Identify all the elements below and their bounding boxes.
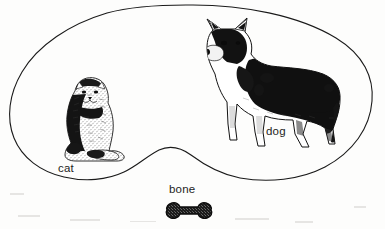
scan-artifact <box>235 218 269 220</box>
label-cat: cat <box>58 163 74 175</box>
dog-illustration <box>183 16 348 160</box>
bone-illustration <box>163 200 215 222</box>
label-bone: bone <box>169 184 195 196</box>
label-dog: dog <box>266 126 286 138</box>
scan-artifact <box>130 221 156 222</box>
scan-artifact <box>10 193 24 195</box>
cat-illustration <box>54 73 128 165</box>
scan-artifact <box>18 215 40 217</box>
scan-artifact <box>295 221 313 223</box>
scan-artifact <box>70 219 100 221</box>
diagram-canvas: cat dog bone <box>0 0 385 229</box>
scan-artifact <box>354 206 366 208</box>
